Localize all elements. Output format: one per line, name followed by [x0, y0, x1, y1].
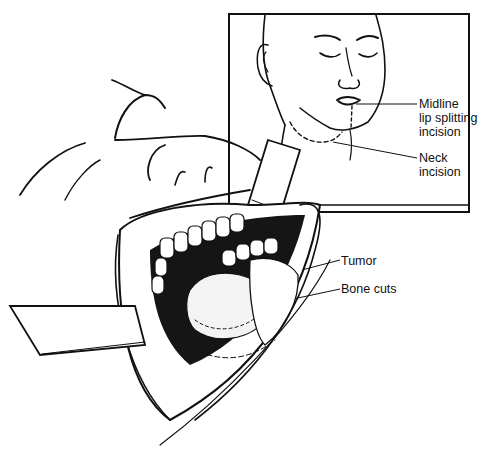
label-midline-incision: Midline lip splitting incision	[419, 97, 477, 139]
label-neck-incision: Neck incision	[419, 151, 461, 179]
surgical-illustration	[0, 0, 484, 465]
surgeon-hand	[20, 80, 260, 218]
label-bone-cuts: Bone cuts	[341, 282, 397, 296]
lower-retractor	[10, 306, 145, 355]
oral-cavity	[116, 203, 330, 445]
label-tumor: Tumor	[341, 254, 377, 268]
